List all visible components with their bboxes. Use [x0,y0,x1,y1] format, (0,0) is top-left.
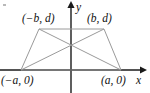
diagonal-right-to-top-left [39,29,121,70]
vertex-label-top-left: (−b, d) [22,13,55,25]
vertex-label-top-right: (b, d) [87,13,112,25]
vertex-label-bottom-right: (a, 0) [101,75,126,87]
x-axis-label: x [136,75,141,87]
geometry-figure: (−b, d) (b, d) (−a, 0) (a, 0) y x [0,0,150,93]
y-axis-label: y [76,2,81,14]
y-axis-arrowhead [67,1,74,8]
vertex-label-bottom-left: (−a, 0) [1,75,34,87]
diagonal-left-to-top-right [21,29,104,70]
x-axis-arrowhead [140,66,147,73]
